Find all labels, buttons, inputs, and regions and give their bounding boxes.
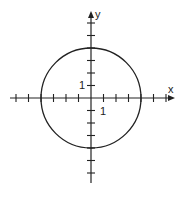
y-axis-label: y <box>95 8 101 20</box>
y-axis-arrow-icon <box>88 11 94 18</box>
y-unit-label: 1 <box>79 79 85 91</box>
x-axis-arrow-icon <box>168 95 175 101</box>
x-axis-label: x <box>168 83 174 95</box>
x-unit-label: 1 <box>100 105 106 117</box>
diagram-canvas: x y 1 1 <box>0 0 182 197</box>
